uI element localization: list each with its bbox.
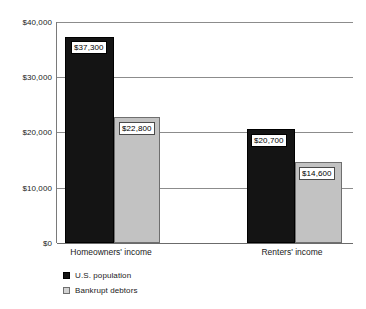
legend-item-bankrupt-debtors[interactable]: Bankrupt debtors <box>63 284 138 296</box>
legend: U.S. population Bankrupt debtors <box>63 269 138 299</box>
y-axis-tick-label: $40,000 <box>0 18 52 27</box>
value-label-homeowners-bankrupt-debtors: $22,800 <box>119 122 155 135</box>
legend-item-label: Bankrupt debtors <box>75 286 138 295</box>
bar-homeowners-bankrupt-debtors[interactable] <box>114 117 160 243</box>
y-axis-tick-label: $30,000 <box>0 73 52 82</box>
bar-chart: $40,000 $30,000 $20,000 $10,000 $0 $37,3… <box>0 0 366 309</box>
value-label-renters-us-population: $20,700 <box>251 134 287 147</box>
legend-swatch-icon <box>63 272 70 279</box>
plot-area: $37,300 $22,800 $20,700 $14,600 <box>56 22 352 243</box>
axis-baseline <box>57 243 353 244</box>
value-label-renters-bankrupt-debtors: $14,600 <box>299 167 335 180</box>
gridline-40000 <box>57 22 353 23</box>
legend-item-us-population[interactable]: U.S. population <box>63 269 138 281</box>
x-axis-label-renters: Renters' income <box>240 247 344 258</box>
y-axis-tick-label: $0 <box>0 239 52 248</box>
legend-swatch-icon <box>63 287 70 294</box>
bar-homeowners-us-population[interactable] <box>65 37 114 243</box>
y-axis-tick-label: $10,000 <box>0 184 52 193</box>
y-axis-tick-label: $20,000 <box>0 128 52 137</box>
legend-item-label: U.S. population <box>75 271 131 280</box>
x-axis-label-homeowners: Homeowners' income <box>56 247 166 258</box>
value-label-homeowners-us-population: $37,300 <box>71 41 107 54</box>
